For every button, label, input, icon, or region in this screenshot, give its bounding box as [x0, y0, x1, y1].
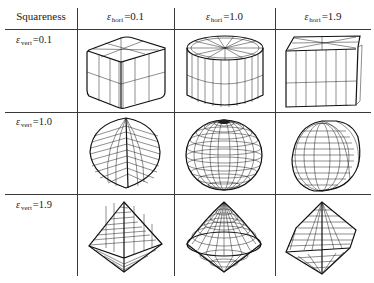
- col-divider-1: [77, 8, 78, 276]
- col-header-3: εhori=1.9: [275, 10, 371, 22]
- header-rule: [5, 29, 371, 30]
- col-header-sub: hori: [211, 16, 222, 24]
- shape-rounded-box: [85, 32, 170, 110]
- row-header-value: =0.1: [33, 34, 52, 45]
- shape-skewed-ellipsoid: [284, 117, 366, 193]
- epsilon-symbol: ε: [16, 116, 20, 127]
- row-header-sub: vert: [21, 121, 32, 129]
- row-header-3: εvert=1.9: [16, 199, 52, 210]
- shape-faceted-octahedron: [284, 200, 366, 276]
- shape-octahedron: [86, 200, 166, 274]
- row-divider-2: [5, 194, 371, 195]
- epsilon-symbol: ε: [16, 199, 20, 210]
- epsilon-symbol: ε: [107, 11, 111, 22]
- row-header-value: =1.0: [33, 116, 52, 127]
- col-divider-2: [174, 8, 175, 276]
- col-header-sub: hori: [309, 16, 320, 24]
- col-divider-3: [275, 8, 276, 276]
- row-header-value: =1.9: [33, 199, 52, 210]
- shape-double-cone: [184, 200, 264, 274]
- row-header-sub: vert: [21, 204, 32, 212]
- col-header-2: εhori=1.0: [174, 10, 275, 22]
- corner-header-label: Squareness: [16, 10, 66, 22]
- col-header-value: =0.1: [124, 10, 144, 22]
- row-header-1: εvert=0.1: [16, 34, 52, 45]
- corner-header: Squareness: [5, 10, 77, 22]
- row-header-sub: vert: [21, 39, 32, 47]
- shape-flat-box: [284, 33, 364, 109]
- shape-faceted-bulb: [84, 116, 164, 190]
- col-header-value: =1.9: [322, 10, 342, 22]
- col-header-value: =1.0: [223, 10, 243, 22]
- shape-sphere: [184, 117, 264, 191]
- epsilon-symbol: ε: [304, 11, 308, 22]
- row-header-2: εvert=1.0: [16, 116, 52, 127]
- shape-cylinder: [184, 33, 266, 110]
- col-header-sub: hori: [112, 16, 123, 24]
- epsilon-symbol: ε: [16, 34, 20, 45]
- col-header-1: εhori=0.1: [77, 10, 174, 22]
- epsilon-symbol: ε: [206, 11, 210, 22]
- row-divider-1: [5, 112, 371, 113]
